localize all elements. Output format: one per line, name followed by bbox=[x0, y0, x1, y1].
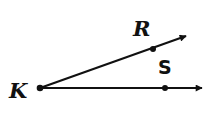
vertex-point-k bbox=[37, 85, 44, 92]
label-k: K bbox=[8, 78, 28, 103]
angle-diagram: K R S bbox=[0, 0, 221, 124]
label-s: S bbox=[158, 56, 172, 78]
label-r: R bbox=[132, 16, 150, 41]
point-r bbox=[150, 46, 156, 52]
point-s bbox=[162, 85, 168, 91]
